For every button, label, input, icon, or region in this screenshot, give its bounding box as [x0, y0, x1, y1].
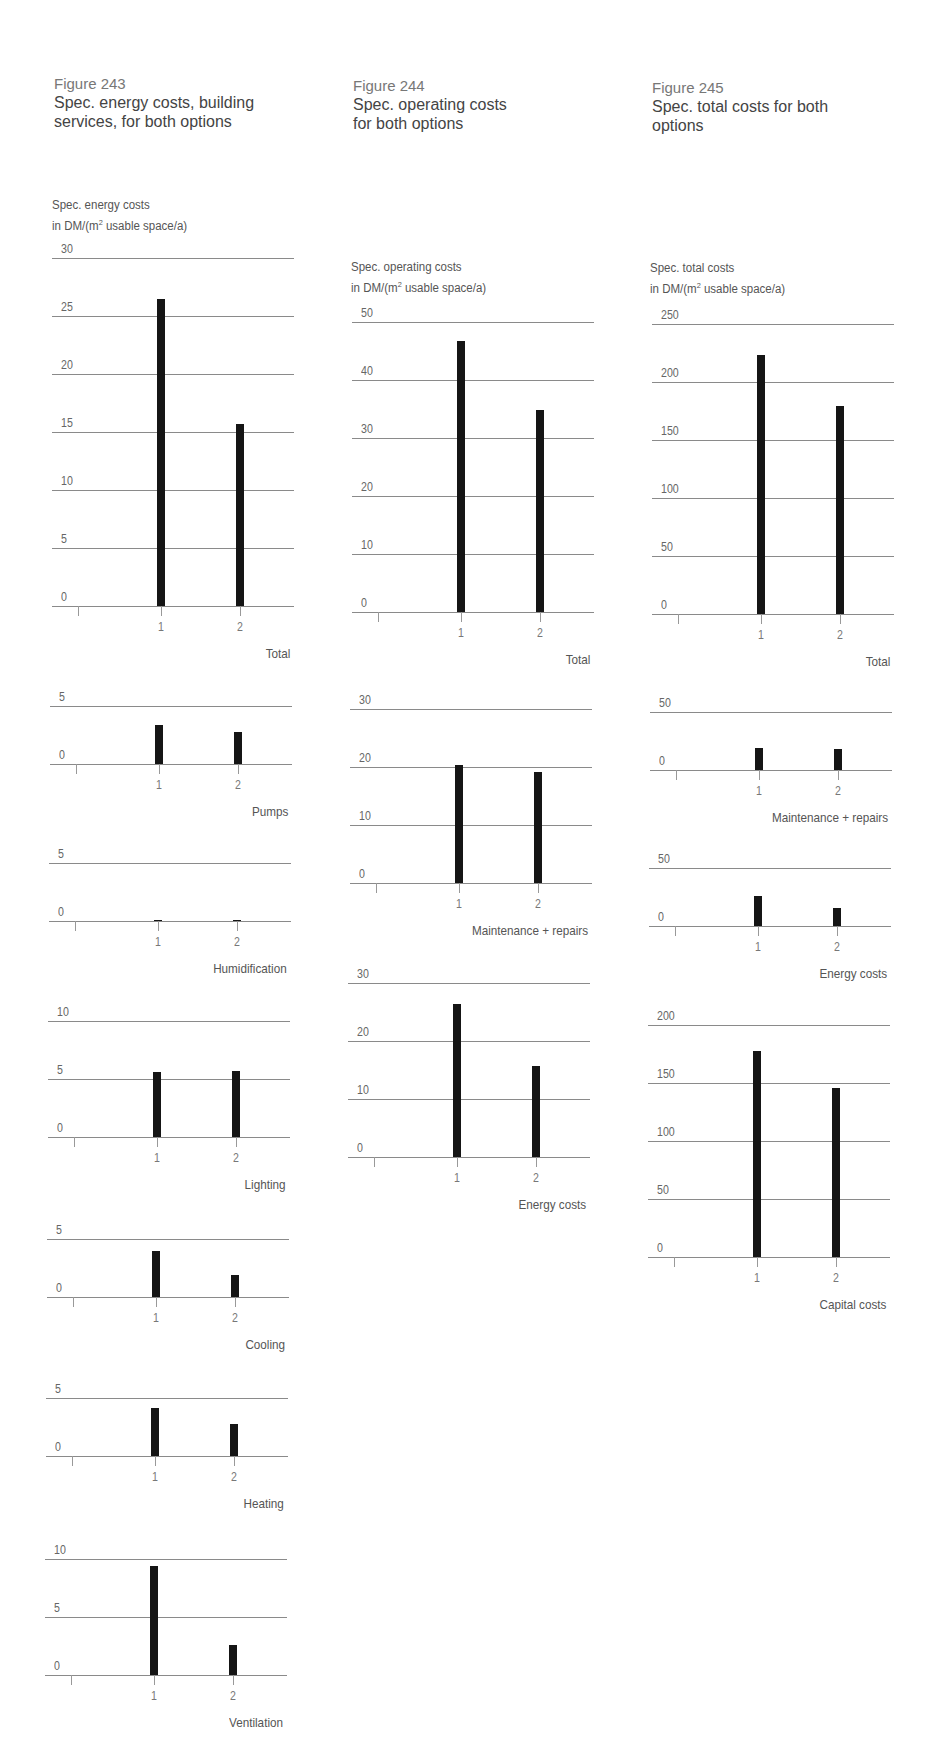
gridline	[648, 1025, 890, 1026]
figure-244-heading: Figure 244 Spec. operating costs for bot…	[353, 77, 613, 133]
y-tick-label: 0	[57, 1121, 63, 1135]
bar-option-2	[232, 1071, 240, 1137]
gridline	[649, 868, 891, 869]
gridline	[652, 498, 894, 499]
gridline	[348, 983, 590, 984]
gridline	[648, 1083, 890, 1084]
x-tick-label: 2	[837, 628, 843, 642]
gridline	[52, 316, 294, 317]
y-tick-label: 150	[657, 1067, 675, 1081]
bar-option-1	[453, 1004, 461, 1157]
bar-option-2	[834, 749, 842, 770]
y-tick-label: 250	[661, 308, 679, 322]
unit-text: in DM/(m	[650, 282, 697, 296]
gridline	[348, 1157, 590, 1158]
y-tick-label: 0	[361, 596, 367, 610]
gridline	[350, 709, 592, 710]
gridline	[52, 490, 294, 491]
figure-title: services, for both options	[54, 112, 314, 131]
gridline	[652, 614, 894, 615]
y-tick-label: 150	[661, 424, 679, 438]
category-label: Capital costs	[819, 1297, 886, 1312]
gridline	[650, 770, 892, 771]
x-tick-label: 1	[758, 628, 764, 642]
x-tick-label: 1	[756, 784, 762, 798]
x-tick-label: 2	[533, 1171, 539, 1185]
category-label: Pumps	[252, 804, 288, 819]
gridline	[352, 554, 594, 555]
gridline	[48, 1021, 290, 1022]
x-tick-label: 1	[156, 778, 162, 792]
figure-number: Figure 245	[652, 79, 912, 97]
y-tick-label: 50	[657, 1183, 669, 1197]
y-tick-label: 5	[57, 1063, 63, 1077]
gridline	[648, 1199, 890, 1200]
y-tick-label: 200	[657, 1009, 675, 1023]
bar-option-2	[230, 1424, 238, 1456]
y-tick-label: 50	[361, 306, 373, 320]
gridline	[50, 706, 292, 707]
x-tick-label: 2	[535, 897, 541, 911]
bar-option-2	[832, 1088, 840, 1257]
bar-option-1	[152, 1251, 160, 1297]
x-tick	[838, 770, 839, 780]
gridline	[48, 1137, 290, 1138]
y-tick-label: 10	[359, 809, 371, 823]
x-tick	[758, 926, 759, 936]
gridline	[47, 1239, 289, 1240]
x-tick	[457, 1157, 458, 1167]
x-tick-label: 2	[833, 1271, 839, 1285]
gridline	[350, 883, 592, 884]
x-tick-label: 1	[152, 1470, 158, 1484]
category-label: Heating	[244, 1496, 284, 1511]
y-tick-label: 100	[661, 482, 679, 496]
bar-option-2	[833, 908, 841, 926]
gridline	[49, 921, 291, 922]
y-tick-label: 5	[55, 1382, 61, 1396]
axis-origin-tick	[678, 614, 679, 624]
y-axis-unit-label: Spec. energy costs in DM/(m2 usable spac…	[52, 197, 187, 235]
y-tick-label: 5	[61, 532, 67, 546]
y-tick-label: 10	[57, 1005, 69, 1019]
x-tick-label: 1	[454, 1171, 460, 1185]
gridline	[649, 926, 891, 927]
y-tick-label: 15	[61, 416, 73, 430]
y-axis-unit-label: Spec. operating costs in DM/(m2 usable s…	[351, 259, 486, 297]
gridline	[650, 712, 892, 713]
bar-option-1	[155, 725, 163, 764]
x-tick-label: 2	[234, 935, 240, 949]
x-tick-label: 1	[153, 1311, 159, 1325]
gridline	[652, 382, 894, 383]
unit-line: in DM/(m2 usable space/a)	[351, 276, 486, 297]
y-tick-label: 30	[361, 422, 373, 436]
y-tick-label: 5	[54, 1601, 60, 1615]
figure-title: Spec. energy costs, building	[54, 93, 314, 112]
gridline	[52, 432, 294, 433]
y-tick-label: 100	[657, 1125, 675, 1139]
gridline	[47, 1297, 289, 1298]
axis-origin-tick	[76, 764, 77, 774]
gridline	[648, 1257, 890, 1258]
gridline	[352, 380, 594, 381]
y-tick-label: 0	[59, 748, 65, 762]
bar-option-2	[236, 424, 244, 606]
x-tick-label: 1	[155, 935, 161, 949]
category-label: Energy costs	[819, 966, 887, 981]
y-tick-label: 0	[54, 1659, 60, 1673]
x-tick	[155, 1456, 156, 1466]
gridline	[348, 1099, 590, 1100]
x-tick	[156, 1297, 157, 1307]
x-tick-label: 1	[754, 1271, 760, 1285]
category-label: Total	[865, 654, 890, 669]
bar-option-1	[457, 341, 465, 612]
y-tick-label: 0	[661, 598, 667, 612]
category-label: Maintenance + repairs	[772, 810, 888, 825]
unit-line: in DM/(m2 usable space/a)	[650, 277, 785, 298]
x-tick-label: 2	[233, 1151, 239, 1165]
unit-text: usable space/a)	[402, 281, 486, 295]
x-tick-label: 2	[231, 1470, 237, 1484]
axis-origin-tick	[78, 606, 79, 616]
x-tick	[536, 1157, 537, 1167]
axis-origin-tick	[676, 770, 677, 780]
unit-line: Spec. total costs	[650, 260, 785, 277]
